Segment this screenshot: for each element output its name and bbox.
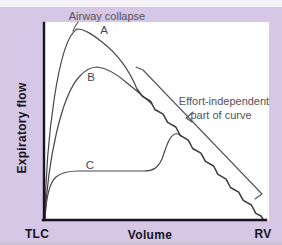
flow-volume-diagram: Airway collapse Effort-independent part … (0, 0, 282, 245)
airway-collapse-label: Airway collapse (69, 10, 145, 22)
plot-panel (43, 22, 269, 221)
curve-c-label: C (86, 159, 94, 171)
curve-b-label: B (87, 71, 95, 83)
effort-annotation-line1: Effort-independent (179, 95, 269, 107)
x-axis-left-label: TLC (25, 227, 49, 241)
page-top-strip (0, 0, 282, 7)
x-axis-label: Volume (128, 228, 172, 242)
y-axis-label: Expiratory flow (15, 82, 29, 174)
effort-annotation-line2: part of curve (190, 109, 251, 121)
diagram-canvas: Airway collapse Effort-independent part … (0, 0, 282, 245)
curve-a-label: A (100, 24, 108, 36)
x-axis-right-label: RV (254, 227, 271, 241)
